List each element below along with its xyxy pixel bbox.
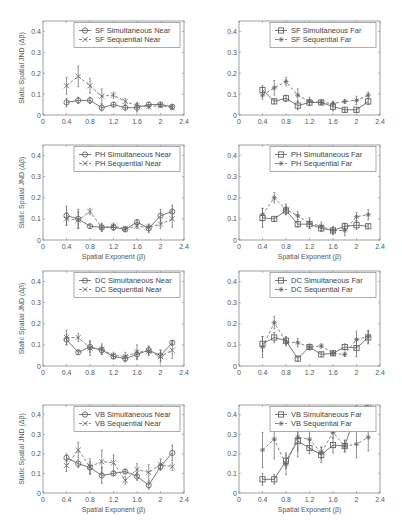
x-tick-label: 0.8: [85, 496, 95, 503]
y-tick-label: 0.1: [227, 341, 237, 348]
x-tick-label: 2.4: [179, 118, 189, 125]
x-tick-label: 0.8: [85, 369, 95, 376]
x-tick-label: 0.8: [281, 118, 291, 125]
y-tick-label: 0.4: [31, 411, 41, 418]
star-marker: [354, 337, 359, 342]
star-marker: [330, 351, 335, 356]
star-marker: [283, 207, 288, 212]
x-axis-label: Spatial Exponent (β): [82, 253, 146, 261]
star-marker: [330, 228, 335, 233]
chart-panel-sf-far: 00.40.81.21.622.400.10.20.30.4SF Simulta…: [227, 21, 385, 125]
x-tick-label: 1.2: [305, 243, 315, 250]
y-tick-label: 0.2: [227, 320, 237, 327]
y-tick-label: 0.3: [31, 431, 41, 438]
x-tick-label: 1.2: [109, 496, 119, 503]
star-marker: [295, 435, 300, 440]
x-tick-label: 1.6: [328, 496, 338, 503]
star-marker: [272, 320, 277, 325]
y-tick-label: 0.4: [227, 411, 237, 418]
x-tick-label: 0.4: [258, 496, 268, 503]
star-marker: [342, 352, 347, 357]
x-tick-label: 1.6: [328, 369, 338, 376]
x-tick-label: 1.6: [132, 369, 142, 376]
x-tick-label: 2.4: [179, 369, 189, 376]
x-axis-label: Spatial Exponent (β): [82, 506, 146, 514]
x-tick-label: 2.4: [375, 243, 385, 250]
star-marker: [260, 344, 265, 349]
x-tick-label: 1.2: [305, 496, 315, 503]
chart-panel-dc-near: 00.40.81.21.622.400.10.20.30.4Static Spa…: [18, 271, 189, 376]
legend-entry: SF Simultaneous Near: [95, 26, 171, 35]
x-tick-label: 0: [41, 496, 45, 503]
x-tick-label: 2.4: [375, 496, 385, 503]
star-marker: [366, 334, 371, 339]
y-tick-label: 0.4: [31, 152, 41, 159]
chart-panel-ph-near: 00.40.81.21.622.400.10.20.30.4Static Spa…: [18, 145, 189, 261]
x-tick-label: 1.2: [109, 369, 119, 376]
star-marker: [366, 212, 371, 217]
legend: DC Simultaneous NearDC Sequential Near: [74, 273, 180, 298]
star-marker: [319, 224, 324, 229]
star-marker: [307, 221, 312, 226]
x-tick-label: 2.4: [375, 369, 385, 376]
legend-entry: SF Sequential Near: [95, 35, 161, 44]
star-marker: [342, 99, 347, 104]
series-sequential: [64, 66, 175, 110]
legend-entry: DC Simultaneous Near: [95, 276, 172, 285]
star-marker: [307, 99, 312, 104]
legend-entry: PH Simultaneous Near: [95, 150, 172, 159]
chart-panel-ph-far: 00.40.81.21.622.400.10.20.30.4Spatial Ex…: [227, 145, 385, 261]
legend-entry: VB Sequential Far: [291, 419, 352, 428]
star-marker: [342, 228, 347, 233]
y-tick-label: 0.4: [31, 278, 41, 285]
x-tick-label: 0.4: [62, 496, 72, 503]
star-marker: [283, 339, 288, 344]
x-tick-label: 2.4: [179, 496, 189, 503]
y-tick-label: 0.3: [227, 49, 237, 56]
y-tick-label: 0.2: [227, 70, 237, 77]
star-marker: [354, 98, 359, 103]
x-axis-label: Spatial Exponent (β): [278, 253, 342, 261]
star-marker: [278, 421, 283, 426]
y-tick-label: 0: [37, 363, 41, 370]
star-marker: [366, 93, 371, 98]
x-tick-label: 1.6: [328, 243, 338, 250]
star-marker: [278, 287, 283, 292]
y-tick-label: 0.2: [31, 320, 41, 327]
y-tick-label: 0.1: [31, 470, 41, 477]
y-tick-label: 0.1: [31, 341, 41, 348]
star-marker: [295, 93, 300, 98]
series-simultaneous: [260, 331, 371, 361]
series-sequential: [260, 193, 371, 236]
x-tick-label: 1.2: [109, 243, 119, 250]
legend-entry: VB Sequential Near: [95, 419, 161, 428]
y-tick-label: 0.1: [227, 470, 237, 477]
y-tick-label: 0: [233, 363, 237, 370]
y-tick-label: 0.4: [227, 152, 237, 159]
star-marker: [319, 343, 324, 348]
x-tick-label: 2: [355, 118, 359, 125]
legend-entry: DC Simultaneous Far: [291, 276, 363, 285]
y-tick-label: 0.4: [31, 28, 41, 35]
series-simultaneous: [260, 389, 371, 485]
y-tick-label: 0: [233, 490, 237, 497]
y-tick-label: 0: [37, 112, 41, 119]
x-tick-label: 1.2: [305, 369, 315, 376]
x-tick-label: 1.2: [305, 118, 315, 125]
x-tick-label: 0.8: [85, 243, 95, 250]
legend-entry: VB Simultaneous Near: [95, 410, 171, 419]
x-tick-label: 0.4: [62, 369, 72, 376]
y-tick-label: 0.1: [227, 91, 237, 98]
series-simultaneous: [260, 86, 371, 113]
figure-grid: 00.40.81.21.622.400.10.20.30.4Static Spa…: [0, 0, 402, 530]
legend: PH Simultaneous FarPH Sequential Far: [270, 147, 376, 172]
chart-panel-vb-near: 00.40.81.21.622.400.10.20.30.4Static Spa…: [18, 405, 189, 514]
star-marker: [342, 443, 347, 448]
star-marker: [354, 214, 359, 219]
x-tick-label: 2: [159, 369, 163, 376]
x-tick-label: 0: [41, 243, 45, 250]
y-tick-label: 0.4: [227, 28, 237, 35]
y-axis-label: Static Spatial JND (Δβ): [18, 413, 26, 485]
star-marker: [295, 213, 300, 218]
x-tick-label: 0.4: [62, 243, 72, 250]
